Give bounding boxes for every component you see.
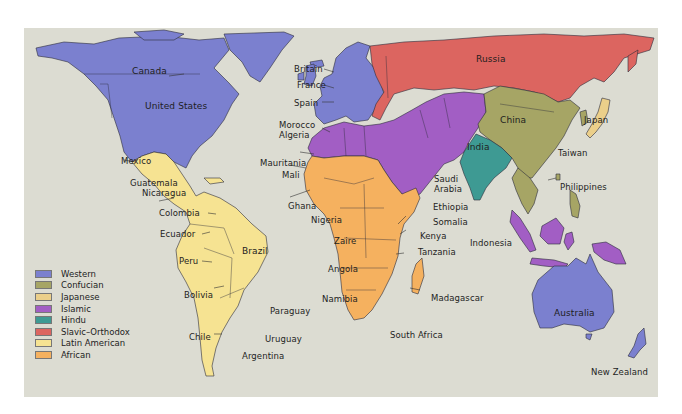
region-western-oceania (532, 254, 646, 358)
legend-label: Latin American (61, 338, 125, 348)
legend-label: Confucian (61, 280, 104, 290)
label-bolivia: Bolivia (184, 290, 213, 300)
label-guatemala: Guatemala (130, 178, 178, 188)
label-colombia: Colombia (159, 208, 200, 218)
legend-item-islamic: Islamic (35, 303, 130, 315)
label-taiwan: Taiwan (558, 148, 588, 158)
label-nigeria: Nigeria (311, 215, 342, 225)
legend-label: Slavic–Orthodox (61, 327, 130, 337)
label-brazil: Brazil (242, 246, 268, 256)
label-zaire: Zaire (334, 236, 356, 246)
label-canada: Canada (132, 66, 167, 76)
legend-item-hindu: Hindu (35, 314, 130, 326)
label-mali: Mali (282, 170, 300, 180)
label-britain: Britain (294, 64, 323, 74)
label-indonesia: Indonesia (470, 238, 512, 248)
label-chile: Chile (189, 332, 211, 342)
label-peru: Peru (179, 256, 198, 266)
label-philippines: Philippines (560, 182, 607, 192)
legend-label: Hindu (61, 315, 86, 325)
label-south-africa: South Africa (390, 330, 443, 340)
label-madagascar: Madagascar (431, 293, 484, 303)
label-angola: Angola (328, 264, 358, 274)
legend-item-african: African (35, 349, 130, 361)
label-kenya: Kenya (420, 231, 447, 241)
legend-swatch-latin-american (35, 339, 52, 347)
legend-item-slavic-orthodox: Slavic–Orthodox (35, 326, 130, 338)
legend-swatch-western (35, 270, 52, 278)
legend-label: Japanese (61, 292, 100, 302)
legend-item-japanese: Japanese (35, 291, 130, 303)
label-algeria: Algeria (279, 130, 310, 140)
label-uruguay: Uruguay (265, 334, 302, 344)
label-australia: Australia (554, 308, 595, 318)
legend-item-western: Western (35, 268, 130, 280)
label-morocco: Morocco (279, 120, 315, 130)
legend-swatch-islamic (35, 305, 52, 313)
label-namibia: Namibia (322, 294, 358, 304)
legend-swatch-hindu (35, 316, 52, 324)
legend-label: Western (61, 269, 96, 279)
label-united-states: United States (145, 101, 207, 111)
legend-swatch-japanese (35, 293, 52, 301)
legend-item-latin-american: Latin American (35, 338, 130, 350)
label-nicaragua: Nicaragua (142, 188, 186, 198)
label-mexico: Mexico (121, 156, 151, 166)
label-paraguay: Paraguay (270, 306, 310, 316)
region-western-north-america (36, 30, 324, 168)
legend-label: African (61, 350, 91, 360)
label-japan: Japan (584, 115, 608, 125)
label-ethiopia: Ethiopia (433, 202, 468, 212)
label-argentina: Argentina (242, 351, 284, 361)
legend-swatch-confucian (35, 281, 52, 289)
label-india: India (467, 142, 490, 152)
label-tanzania: Tanzania (418, 247, 456, 257)
label-spain: Spain (294, 98, 318, 108)
label-ecuador: Ecuador (160, 229, 195, 239)
label-russia: Russia (476, 54, 506, 64)
legend-label: Islamic (61, 304, 91, 314)
legend-swatch-african (35, 351, 52, 359)
label-somalia: Somalia (433, 217, 468, 227)
label-new-zealand: New Zealand (591, 367, 648, 377)
legend-item-confucian: Confucian (35, 280, 130, 292)
label-mauritania: Mauritania (260, 158, 306, 168)
label-france: France (297, 80, 326, 90)
legend-swatch-slavic-orthodox (35, 328, 52, 336)
label-arabia: Arabia (434, 184, 462, 194)
label-saudi: Saudi (434, 174, 458, 184)
map-legend: Western Confucian Japanese Islamic Hindu… (35, 268, 130, 361)
label-china: China (500, 115, 526, 125)
label-ghana: Ghana (288, 201, 316, 211)
